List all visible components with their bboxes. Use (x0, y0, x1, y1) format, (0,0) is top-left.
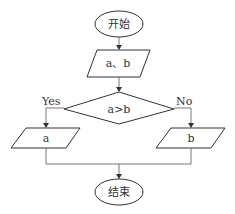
output-b-node: b (156, 128, 225, 148)
edge-no: No (174, 95, 194, 128)
start-label: 开始 (108, 17, 130, 31)
arrowhead-icon (43, 123, 49, 128)
edge-input-to-decision (116, 77, 122, 92)
arrowhead-icon (116, 45, 122, 50)
edge-start-to-input (116, 37, 122, 50)
arrowhead-icon (116, 174, 122, 179)
output-a-node: a (11, 128, 80, 148)
input-node: a、b (87, 50, 150, 77)
output-b-label: b (187, 132, 194, 145)
decision-node: a>b (64, 92, 174, 124)
output-a-label: a (43, 132, 50, 145)
arrowhead-icon (116, 87, 122, 92)
flowchart-canvas: 开始 a、b a>b Yes No a b (0, 0, 235, 214)
edge-yes: Yes (41, 95, 64, 128)
input-label: a、b (106, 57, 131, 70)
arrowhead-icon (188, 123, 194, 128)
no-label: No (176, 95, 193, 108)
end-label: 结束 (108, 186, 130, 199)
decision-label: a>b (108, 103, 131, 116)
end-node: 结束 (95, 179, 143, 205)
yes-label: Yes (41, 95, 61, 108)
edge-merge (46, 148, 191, 179)
start-node: 开始 (95, 11, 143, 37)
